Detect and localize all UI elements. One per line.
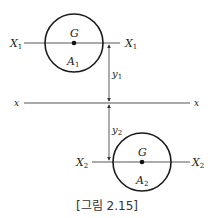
x2-label-right: X2 [191, 156, 204, 170]
dimension-y1: y1 [109, 45, 122, 101]
x-axis-label-left: x [14, 98, 19, 108]
centroid2-label: G [138, 146, 147, 159]
x-axis-label-right: x [194, 98, 199, 108]
parallel-axis-diagram: G A1 X1 X1 x x y1 y2 G A2 X2 X2 [그림 2.15… [0, 0, 214, 218]
shape1-group: G A1 X1 X1 [9, 14, 137, 72]
y2-label: y2 [111, 124, 122, 137]
x1-label-left: X1 [9, 37, 22, 51]
x2-label-left: X2 [75, 156, 88, 170]
area2-label: A2 [135, 174, 148, 188]
area1-label: A1 [66, 55, 79, 69]
x1-label-right: X1 [124, 37, 137, 51]
centroid2-dot [140, 160, 145, 165]
reference-axis-group: x x [14, 98, 199, 108]
shape2-group: G A2 X2 X2 [75, 133, 204, 191]
y1-label: y1 [111, 68, 122, 81]
figure-caption: [그림 2.15] [76, 199, 138, 213]
centroid1-dot [72, 41, 77, 46]
centroid1-label: G [70, 27, 79, 40]
